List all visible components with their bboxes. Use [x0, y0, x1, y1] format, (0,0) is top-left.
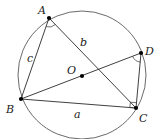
point-b [19, 97, 23, 101]
angle-mark-a [46, 25, 55, 28]
label-d: D [144, 45, 154, 58]
segment-ac [49, 18, 136, 108]
point-a [47, 16, 51, 20]
point-d [139, 51, 143, 55]
label-c: C [139, 112, 148, 125]
side-label-b: b [80, 36, 87, 49]
right-angle-mark-c-top [130, 102, 136, 103]
label-o: O [67, 64, 76, 77]
side-label-a: a [74, 108, 81, 121]
segment-bc [21, 99, 136, 108]
label-a: A [37, 4, 46, 17]
segment-ab [21, 18, 49, 99]
point-c [134, 106, 138, 110]
angle-mark-d [133, 56, 141, 62]
label-b: B [5, 103, 14, 116]
geometry-diagram: A B C D O c b a [0, 0, 160, 139]
point-o-center [80, 74, 84, 78]
side-label-c: c [27, 52, 33, 65]
